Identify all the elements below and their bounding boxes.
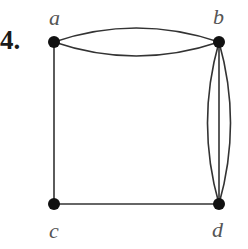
label-b: b (213, 6, 224, 28)
node-d (213, 198, 225, 210)
edge-a-b-lower (54, 42, 219, 56)
label-c: c (49, 220, 59, 242)
edge-b-d-left (208, 42, 220, 204)
node-a (48, 36, 60, 48)
edge-a-b-upper (54, 28, 219, 42)
node-c (48, 198, 60, 210)
edge-b-d-right (219, 42, 231, 204)
label-d: d (212, 219, 223, 241)
label-a: a (49, 7, 60, 29)
multigraph-diagram (0, 0, 248, 249)
node-b (213, 36, 225, 48)
